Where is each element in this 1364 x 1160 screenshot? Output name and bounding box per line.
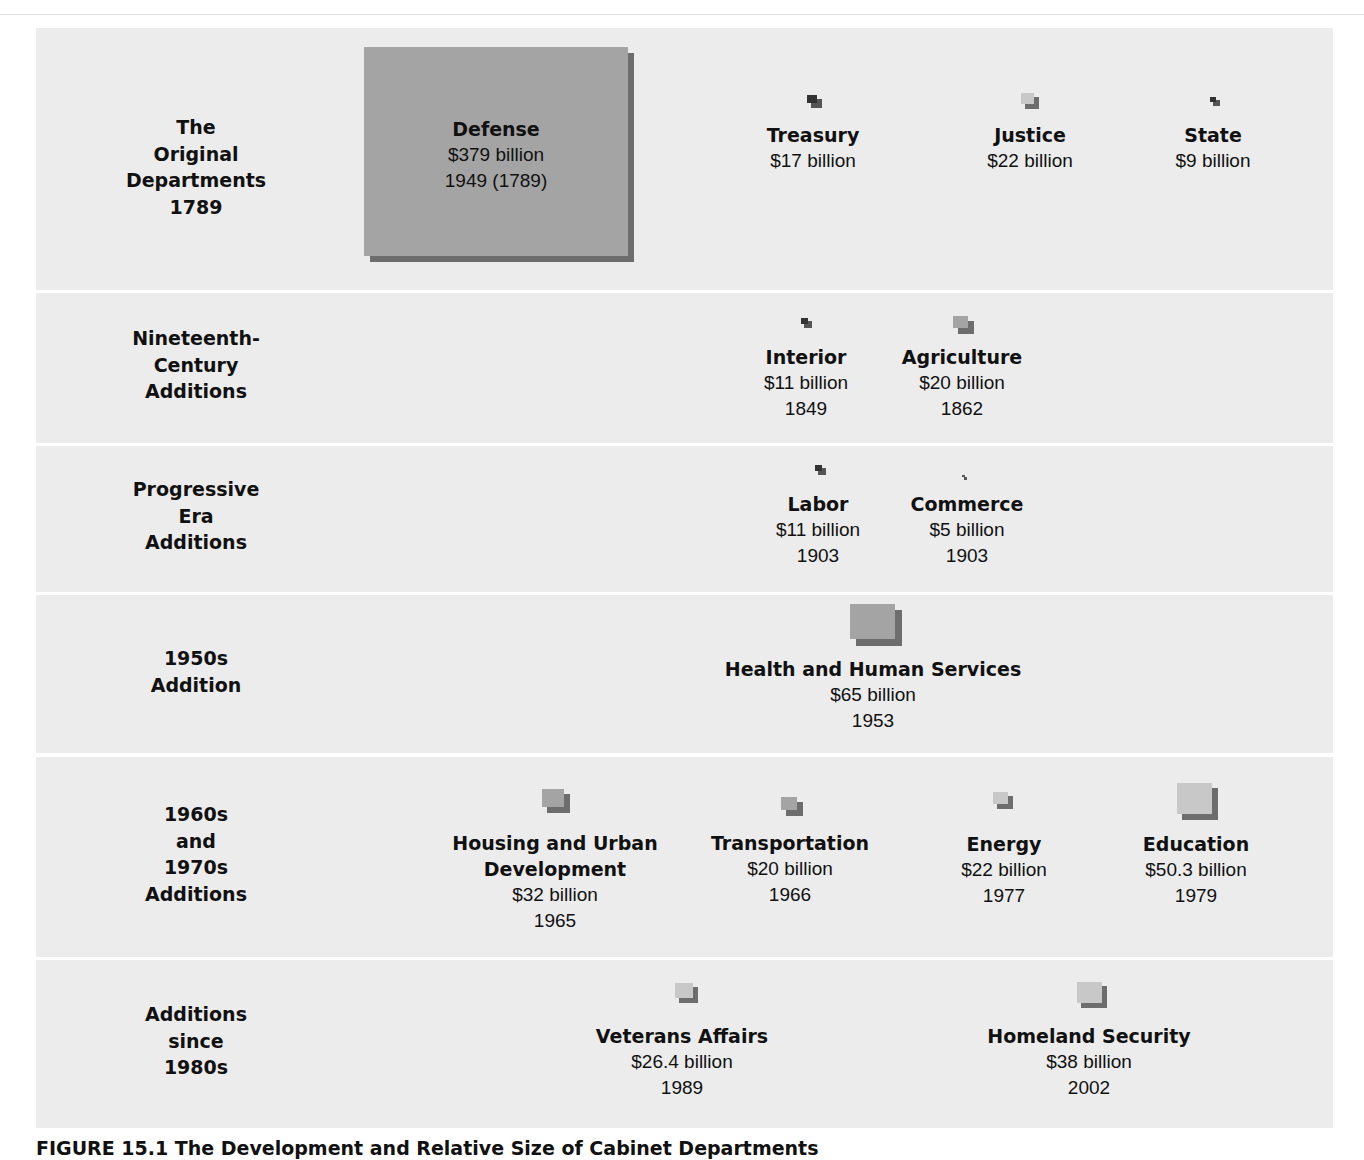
row-label-line: Nineteenth- bbox=[96, 325, 296, 352]
dept-treasury: Treasury $17 billion bbox=[767, 122, 860, 174]
row-label-line: Century bbox=[96, 352, 296, 379]
dept-year: 1903 bbox=[776, 543, 860, 569]
dept-name: Development bbox=[452, 856, 657, 882]
row-label-line: The bbox=[96, 114, 296, 141]
dept-name: Treasury bbox=[767, 122, 860, 148]
dept-homeland-security: Homeland Security $38 billion 2002 bbox=[987, 1023, 1190, 1101]
dept-education: Education $50.3 billion 1979 bbox=[1143, 831, 1249, 909]
row-label-line: Additions bbox=[96, 378, 296, 405]
dept-name: Interior bbox=[764, 344, 848, 370]
dept-amount: $11 billion bbox=[764, 370, 848, 396]
dept-amount: $65 billion bbox=[725, 682, 1021, 708]
dept-energy: Energy $22 billion 1977 bbox=[961, 831, 1047, 909]
dept-year: 1903 bbox=[911, 543, 1024, 569]
row-label-line: 1950s bbox=[96, 645, 296, 672]
row-label-line: Departments bbox=[96, 167, 296, 194]
dept-year: 1979 bbox=[1143, 883, 1249, 909]
dept-state: State $9 billion bbox=[1176, 122, 1251, 174]
dept-amount: $17 billion bbox=[767, 148, 860, 174]
dept-agriculture: Agriculture $20 billion 1862 bbox=[902, 344, 1022, 422]
row-label-1960s-1970s: 1960s and 1970s Additions bbox=[96, 801, 296, 907]
dept-year: 1966 bbox=[711, 882, 869, 908]
dept-amount: $5 billion bbox=[911, 517, 1024, 543]
dept-interior: Interior $11 billion 1849 bbox=[764, 344, 848, 422]
row-label-nineteenth: Nineteenth- Century Additions bbox=[96, 325, 296, 405]
row-label-line: Progressive bbox=[96, 476, 296, 503]
dept-name: Education bbox=[1143, 831, 1249, 857]
dept-year: 1989 bbox=[596, 1075, 768, 1101]
dept-labor: Labor $11 billion 1903 bbox=[776, 491, 860, 569]
row-label-line: 1980s bbox=[96, 1054, 296, 1081]
dept-year: 1849 bbox=[764, 396, 848, 422]
dept-name: State bbox=[1176, 122, 1251, 148]
dept-amount: $11 billion bbox=[776, 517, 860, 543]
dept-year: 2002 bbox=[987, 1075, 1190, 1101]
dept-name: Labor bbox=[776, 491, 860, 517]
dept-amount: $9 billion bbox=[1176, 148, 1251, 174]
row-label-line: Era bbox=[96, 503, 296, 530]
dept-amount: $20 billion bbox=[902, 370, 1022, 396]
dept-amount: $26.4 billion bbox=[596, 1049, 768, 1075]
top-rule bbox=[0, 14, 1364, 15]
defense-label: Defense $379 billion 1949 (1789) bbox=[364, 116, 628, 194]
dept-name: Commerce bbox=[911, 491, 1024, 517]
dept-year: 1862 bbox=[902, 396, 1022, 422]
dept-year: 1949 (1789) bbox=[364, 168, 628, 194]
row-label-original: The Original Departments 1789 bbox=[96, 114, 296, 220]
row-label-line: 1960s bbox=[96, 801, 296, 828]
dept-veterans-affairs: Veterans Affairs $26.4 billion 1989 bbox=[596, 1023, 768, 1101]
row-label-since-1980s: Additions since 1980s bbox=[96, 1001, 296, 1081]
dept-name: Transportation bbox=[711, 830, 869, 856]
dept-amount: $22 billion bbox=[987, 148, 1073, 174]
dept-name: Health and Human Services bbox=[725, 656, 1021, 682]
dept-justice: Justice $22 billion bbox=[987, 122, 1073, 174]
row-label-line: Addition bbox=[96, 672, 296, 699]
row-label-progressive: Progressive Era Additions bbox=[96, 476, 296, 556]
dept-name: Agriculture bbox=[902, 344, 1022, 370]
dept-name: Veterans Affairs bbox=[596, 1023, 768, 1049]
dept-year: 1977 bbox=[961, 883, 1047, 909]
row-label-line: Additions bbox=[96, 1001, 296, 1028]
row-label-line: 1970s bbox=[96, 854, 296, 881]
dept-amount: $20 billion bbox=[711, 856, 869, 882]
row-label-line: Additions bbox=[96, 529, 296, 556]
dept-amount: $379 billion bbox=[364, 142, 628, 168]
dept-amount: $32 billion bbox=[452, 882, 657, 908]
dept-year: 1965 bbox=[452, 908, 657, 934]
dept-name: Homeland Security bbox=[987, 1023, 1190, 1049]
dept-name: Justice bbox=[987, 122, 1073, 148]
dept-commerce: Commerce $5 billion 1903 bbox=[911, 491, 1024, 569]
dept-amount: $50.3 billion bbox=[1143, 857, 1249, 883]
dept-name: Energy bbox=[961, 831, 1047, 857]
row-label-line: and bbox=[96, 828, 296, 855]
figure-caption: FIGURE 15.1 The Development and Relative… bbox=[36, 1136, 819, 1160]
dept-year: 1953 bbox=[725, 708, 1021, 734]
dept-name: Defense bbox=[364, 116, 628, 142]
dept-amount: $38 billion bbox=[987, 1049, 1190, 1075]
defense-size-box: Defense $379 billion 1949 (1789) bbox=[364, 47, 628, 256]
row-label-line: since bbox=[96, 1028, 296, 1055]
dept-hhs: Health and Human Services $65 billion 19… bbox=[725, 656, 1021, 734]
row-label-1950s: 1950s Addition bbox=[96, 645, 296, 698]
dept-name: Housing and Urban bbox=[452, 830, 657, 856]
dept-hud: Housing and Urban Development $32 billio… bbox=[452, 830, 657, 934]
dept-transportation: Transportation $20 billion 1966 bbox=[711, 830, 869, 908]
row-label-line: 1789 bbox=[96, 194, 296, 221]
dept-amount: $22 billion bbox=[961, 857, 1047, 883]
row-label-line: Additions bbox=[96, 881, 296, 908]
row-label-line: Original bbox=[96, 141, 296, 168]
